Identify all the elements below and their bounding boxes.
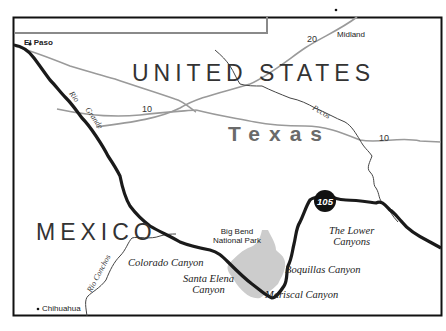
route-105-label: 105	[317, 196, 333, 207]
midland-dot	[335, 9, 338, 12]
city-label-el-paso: El Paso	[24, 39, 53, 47]
santa-elena-line2: Canyon	[183, 285, 234, 296]
state-label-texas: Texas	[228, 123, 331, 144]
highway-20-label: 20	[307, 35, 317, 44]
highway-10-east-label: 10	[379, 134, 389, 143]
country-label-united-states: UNITED STATES	[132, 62, 375, 85]
country-label-mexico: MEXICO	[36, 221, 157, 244]
canyon-label-mariscal: Mariscal Canyon	[265, 290, 338, 301]
park-label-line1: Big Bend	[213, 227, 261, 236]
canyon-label-colorado: Colorado Canyon	[128, 258, 204, 269]
canyon-label-boquillas: Boquillas Canyon	[285, 265, 361, 276]
park-label: Big Bend National Park	[213, 227, 261, 245]
city-label-midland: Midland	[337, 31, 365, 39]
lower-canyons-line1: The Lower	[329, 226, 374, 237]
santa-elena-line1: Santa Elena	[183, 274, 234, 285]
highway-10-west-label: 10	[142, 105, 152, 114]
canyon-label-santa-elena: Santa Elena Canyon	[183, 274, 234, 295]
park-label-line2: National Park	[213, 236, 261, 245]
route-105-marker: 105	[314, 190, 336, 212]
canyon-label-lower-canyons: The Lower Canyons	[329, 226, 374, 247]
lower-canyons-line2: Canyons	[329, 237, 374, 248]
city-label-chihuahua: Chihuahua	[42, 305, 81, 313]
map-container: UNITED STATES MEXICO Texas El Paso Midla…	[0, 0, 446, 331]
chihuahua-dot	[37, 308, 40, 311]
state-border-line	[14, 17, 267, 33]
